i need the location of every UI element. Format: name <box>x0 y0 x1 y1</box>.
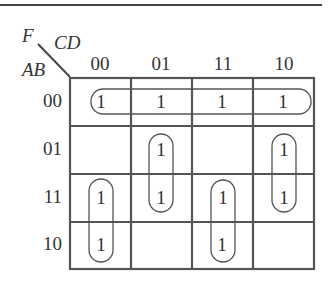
function-label: F <box>21 25 34 46</box>
column-variables-label: CD <box>54 32 81 53</box>
row-label-01: 01 <box>43 138 62 159</box>
cell-r3-c0: 1 <box>96 234 106 255</box>
cell-r0-c2: 1 <box>217 91 227 112</box>
column-label-00: 00 <box>91 53 110 74</box>
cell-r0-c0: 1 <box>96 91 106 112</box>
column-label-01: 01 <box>152 53 171 74</box>
column-label-11: 11 <box>214 53 232 74</box>
cell-r1-c1: 1 <box>156 139 166 160</box>
cell-r2-c3: 1 <box>279 187 289 208</box>
row-label-00: 00 <box>43 90 62 111</box>
karnaugh-map: F CD AB 00 01 11 10 00 01 11 10 1 1 1 1 … <box>0 0 330 284</box>
cell-r2-c1: 1 <box>156 187 166 208</box>
cell-r2-c2: 1 <box>218 187 228 208</box>
cell-r3-c2: 1 <box>217 234 227 255</box>
row-label-10: 10 <box>43 233 62 254</box>
row-label-11: 11 <box>44 186 62 207</box>
cell-r2-c0: 1 <box>96 187 106 208</box>
cell-r0-c1: 1 <box>156 91 166 112</box>
cell-r0-c3: 1 <box>278 91 288 112</box>
cell-r1-c3: 1 <box>279 139 289 160</box>
column-label-10: 10 <box>275 53 294 74</box>
row-variables-label: AB <box>20 59 46 80</box>
